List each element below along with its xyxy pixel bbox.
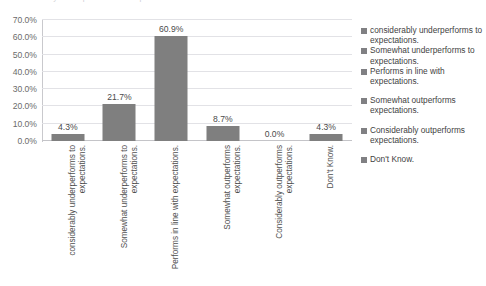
legend-label: Somewhat outperforms expectations. xyxy=(370,95,483,115)
y-axis-tick-label: 20.0% xyxy=(0,101,37,111)
x-axis-tick-label: Don't Know. xyxy=(326,145,336,271)
bars-layer: 4.3%21.7%60.9%8.7%0.0%4.3% xyxy=(42,20,352,141)
bar-value-label: 4.3% xyxy=(58,122,78,132)
y-axis-tick-label: 40.0% xyxy=(0,67,37,77)
legend-item[interactable]: Somewhat underperforms to expectations. xyxy=(361,45,483,65)
legend-label: Don't Know. xyxy=(370,154,483,164)
legend-item[interactable]: Performs in line with expectations. xyxy=(361,66,483,86)
legend-item[interactable]: Considerably outperforms expectations. xyxy=(361,125,483,145)
legend-swatch-icon xyxy=(361,28,367,34)
bar-value-label: 8.7% xyxy=(213,114,233,124)
x-axis-tick-label: Somewhat outperforms expectations. xyxy=(223,145,243,271)
x-axis-category-labels: considerably underperforms to expectatio… xyxy=(42,143,352,273)
bar[interactable] xyxy=(103,104,136,142)
bar-value-label: 21.7% xyxy=(107,92,131,102)
bar-slot: 4.3% xyxy=(300,20,352,141)
legend-swatch-icon xyxy=(361,128,367,134)
y-axis-tick-label: 60.0% xyxy=(0,32,37,42)
x-axis-tick-label: considerably underperforms to expectatio… xyxy=(68,145,88,271)
x-axis-tick-label: Considerably outperforms expectations. xyxy=(275,145,295,271)
bar-slot: 60.9% xyxy=(145,20,197,141)
y-axis-tick-label: 30.0% xyxy=(0,84,37,94)
bar-value-label: 0.0% xyxy=(265,129,285,139)
x-axis-tick-label: Performs in line with expectations. xyxy=(171,145,181,271)
legend-label: Somewhat underperforms to expectations. xyxy=(370,45,483,65)
bar-slot: 21.7% xyxy=(94,20,146,141)
legend-swatch-icon xyxy=(361,69,367,75)
legend-swatch-icon xyxy=(361,48,367,54)
legend-swatch-icon xyxy=(361,157,367,163)
legend-item[interactable]: Don't Know. xyxy=(361,154,483,164)
x-axis-tick-label: Somewhat underperforms to expectations. xyxy=(120,145,140,271)
chart-legend: considerably underperforms to expectatio… xyxy=(361,25,483,164)
y-axis-tick-label: 0.0% xyxy=(0,136,37,146)
cropped-title-sliver: considerably underperforms to expectatio… xyxy=(8,0,258,4)
bar[interactable] xyxy=(51,134,84,141)
legend-label: Considerably outperforms expectations. xyxy=(370,125,483,145)
y-axis-tick-labels: 70.0%60.0%50.0%40.0%30.0%20.0%10.0%0.0% xyxy=(0,14,40,144)
legend-swatch-icon xyxy=(361,98,367,104)
bar[interactable] xyxy=(206,126,239,141)
bar-value-label: 60.9% xyxy=(159,24,183,34)
legend-item[interactable]: Somewhat outperforms expectations. xyxy=(361,95,483,115)
legend-item[interactable]: considerably underperforms to expectatio… xyxy=(361,25,483,45)
legend-label: considerably underperforms to expectatio… xyxy=(370,25,483,45)
bar-slot: 8.7% xyxy=(197,20,249,141)
bar-slot: 4.3% xyxy=(42,20,94,141)
bar-slot: 0.0% xyxy=(249,20,301,141)
y-axis-tick-label: 70.0% xyxy=(0,15,37,25)
y-axis-tick-label: 50.0% xyxy=(0,50,37,60)
bar-chart-figure: considerably underperforms to expectatio… xyxy=(0,0,486,286)
bar[interactable] xyxy=(310,134,343,141)
bar-value-label: 4.3% xyxy=(316,122,336,132)
y-axis-tick-label: 10.0% xyxy=(0,119,37,129)
legend-label: Performs in line with expectations. xyxy=(370,66,483,86)
bar[interactable] xyxy=(155,36,188,141)
